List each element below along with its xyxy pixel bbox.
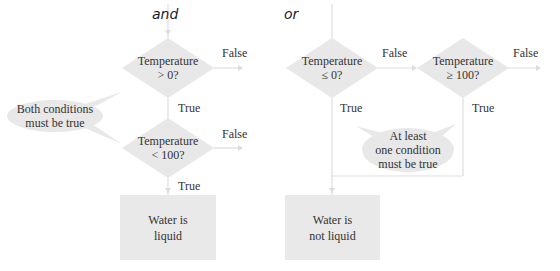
result-line: Water is <box>148 212 187 228</box>
and-decision1-true-label: True <box>178 101 200 116</box>
callout-line: Both conditions <box>7 102 103 116</box>
or-decision2-text: Temperature ≥ 100? <box>418 54 508 82</box>
decision-line: Temperature <box>123 54 213 68</box>
decision-line: Temperature <box>287 54 377 68</box>
callout-line: At least <box>362 129 454 143</box>
result-line: liquid <box>148 228 187 244</box>
callout-line: must be true <box>362 157 454 171</box>
and-decision2-true-label: True <box>178 179 200 194</box>
decision-line: > 0? <box>123 68 213 82</box>
callout-line: must be true <box>7 116 103 130</box>
callout-line: one condition <box>362 143 454 157</box>
decision-line: Temperature <box>418 54 508 68</box>
and-result-box: Water is liquid <box>120 195 216 260</box>
or-callout-text: At least one condition must be true <box>362 129 454 171</box>
decision-line: < 100? <box>123 148 213 162</box>
or-title: or <box>284 6 298 22</box>
and-decision2-false-label: False <box>222 127 247 142</box>
decision-line: ≤ 0? <box>287 68 377 82</box>
or-decision2-true-label: True <box>472 101 494 116</box>
diagram-shapes <box>0 0 560 271</box>
and-decision2-text: Temperature < 100? <box>123 134 213 162</box>
or-decision2-false-label: False <box>513 46 538 61</box>
decision-line: Temperature <box>123 134 213 148</box>
or-decision1-false-label: False <box>382 46 407 61</box>
result-line: not liquid <box>309 228 355 244</box>
and-decision1-false-label: False <box>222 46 247 61</box>
or-decision1-true-label: True <box>340 101 362 116</box>
or-result-box: Water is not liquid <box>285 195 380 260</box>
or-decision1-text: Temperature ≤ 0? <box>287 54 377 82</box>
result-line: Water is <box>309 212 355 228</box>
and-title: and <box>152 6 178 22</box>
and-callout-text: Both conditions must be true <box>7 102 103 130</box>
and-decision1-text: Temperature > 0? <box>123 54 213 82</box>
decision-line: ≥ 100? <box>418 68 508 82</box>
